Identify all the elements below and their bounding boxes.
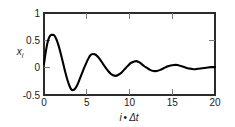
y-tick-label-0.5: 0.5 (26, 35, 40, 46)
y-tick-label-1: 1 (34, 8, 40, 19)
y-tick-label-neg0.5: -0.5 (23, 90, 41, 101)
x-axis-title-delta: Δt (128, 112, 140, 123)
chart-figure: 1 0.5 0 -0.5 0 5 10 15 20 xi i•Δt (0, 0, 235, 127)
x-tick-label-20: 20 (209, 97, 221, 108)
y-tick-label-0: 0 (34, 62, 40, 73)
x-tick-label-0: 0 (41, 97, 47, 108)
x-tick-label-15: 15 (167, 97, 179, 108)
damped-oscillation-chart: 1 0.5 0 -0.5 0 5 10 15 20 xi i•Δt (0, 0, 235, 127)
x-tick-label-5: 5 (84, 97, 90, 108)
x-axis-title-operator: • (124, 112, 128, 123)
x-tick-label-10: 10 (124, 97, 136, 108)
